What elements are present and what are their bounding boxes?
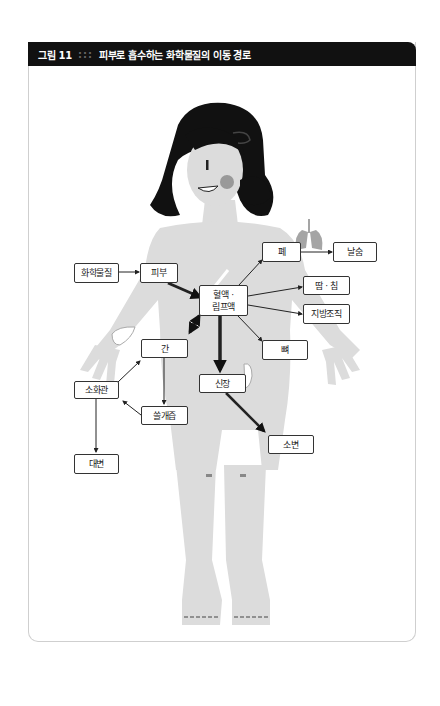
body-illustration <box>0 0 440 706</box>
node-skin: 피부 <box>140 263 178 283</box>
node-lung: 폐 <box>262 242 301 262</box>
head <box>150 103 273 217</box>
node-exhale: 날숨 <box>333 242 377 262</box>
node-bone: 뼈 <box>262 340 308 360</box>
node-kidney: 신장 <box>199 374 246 393</box>
body-silhouette <box>80 200 360 625</box>
node-urine: 소변 <box>268 435 314 454</box>
node-bile: 쓸개즙 <box>141 406 188 425</box>
node-sweat-saliva: 땀 · 침 <box>303 276 350 295</box>
node-digestive-tract: 소화관 <box>74 381 119 399</box>
node-fat-tissue: 지방조직 <box>303 304 350 324</box>
node-chemical: 화학물질 <box>74 263 119 283</box>
node-blood-lymph: 혈액 · 림프액 <box>199 285 248 316</box>
eye <box>206 160 209 170</box>
node-blood-lymph-line1: 혈액 · <box>213 289 234 301</box>
node-blood-lymph-line2: 림프액 <box>212 301 235 313</box>
node-liver: 간 <box>141 339 188 358</box>
node-feces: 대변 <box>74 454 119 474</box>
